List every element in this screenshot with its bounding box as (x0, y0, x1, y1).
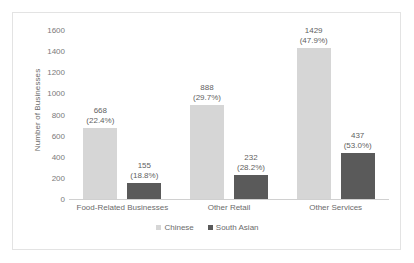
bar-value-label: 232(28.2%) (216, 153, 286, 173)
bar-value-number: 155 (138, 161, 151, 170)
bar-group: 668(22.4%)155(18.8%) (69, 30, 176, 199)
x-axis-category-label: Other Services (261, 203, 411, 212)
bar-value-label: 155(18.8%) (109, 161, 179, 181)
plot-area: 668(22.4%)155(18.8%)888(29.7%)232(28.2%)… (69, 30, 389, 199)
bar-value-percent: (53.0%) (323, 141, 393, 151)
bar-value-label: 437(53.0%) (323, 131, 393, 151)
legend-item[interactable]: Chinese (156, 223, 193, 232)
bar-value-percent: (18.8%) (109, 171, 179, 181)
bar-value-label: 888(29.7%) (172, 83, 242, 103)
bar-value-label: 668(22.4%) (65, 106, 135, 126)
bar-group: 888(29.7%)232(28.2%) (176, 30, 283, 199)
legend-item[interactable]: South Asian (208, 223, 259, 232)
bar-value-percent: (22.4%) (65, 116, 135, 126)
bar-value-number: 437 (351, 131, 364, 140)
y-axis-tick-label: 600 (19, 131, 65, 140)
bar-value-number: 668 (94, 106, 107, 115)
chart-legend: ChineseSouth Asian (13, 223, 402, 232)
x-axis-line (69, 199, 389, 200)
y-axis-tick-label: 400 (19, 152, 65, 161)
bar-south-asian[interactable] (234, 175, 268, 200)
chart-container: Number of Businesses 1600140012001000800… (12, 12, 401, 250)
y-axis-tick-label: 1000 (19, 89, 65, 98)
y-axis-tick-label: 200 (19, 173, 65, 182)
bar-value-percent: (28.2%) (216, 163, 286, 173)
bar-group: 1429(47.9%)437(53.0%) (282, 30, 389, 199)
x-axis-category-labels: Food-Related BusinessesOther RetailOther… (69, 203, 389, 219)
legend-item-label: South Asian (216, 223, 259, 232)
legend-swatch-icon (208, 225, 213, 230)
y-axis-tick-label: 800 (19, 110, 65, 119)
y-axis-tick-label: 1600 (19, 26, 65, 35)
bar-value-percent: (29.7%) (172, 93, 242, 103)
legend-item-label: Chinese (164, 223, 193, 232)
y-axis-tick-label: 1400 (19, 47, 65, 56)
bar-value-number: 888 (200, 83, 213, 92)
y-axis-ticks: 16001400120010008006004002000 (13, 30, 65, 199)
bar-value-percent: (47.9%) (279, 36, 349, 46)
legend-swatch-icon (156, 225, 161, 230)
bar-value-number: 1429 (305, 26, 323, 35)
bar-value-label: 1429(47.9%) (279, 26, 349, 46)
bar-value-number: 232 (244, 153, 257, 162)
bar-chinese[interactable] (297, 48, 331, 199)
bar-south-asian[interactable] (341, 153, 375, 199)
y-axis-tick-label: 1200 (19, 68, 65, 77)
bar-south-asian[interactable] (127, 183, 161, 199)
